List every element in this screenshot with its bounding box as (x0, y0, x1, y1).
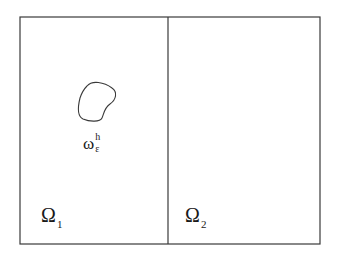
inclusion-superscript: h (95, 132, 100, 142)
region-label-omega1: Ω1 (41, 205, 62, 225)
inclusion-label: ωhε (83, 135, 102, 155)
inclusion-subscript: ε (95, 144, 99, 154)
region-subscript: 2 (201, 218, 207, 230)
inclusion-symbol: ω (83, 134, 94, 153)
outer-domain-boundary (20, 17, 320, 244)
region-label-omega2: Ω2 (185, 205, 206, 225)
region-symbol: Ω (41, 204, 56, 226)
region-subscript: 1 (57, 218, 63, 230)
inclusion-boundary (78, 82, 115, 121)
region-symbol: Ω (185, 204, 200, 226)
